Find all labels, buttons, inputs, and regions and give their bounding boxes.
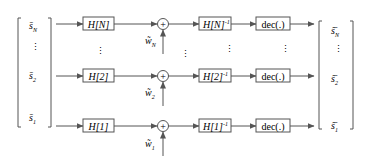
channel-label-h-n: H[N] [87, 19, 110, 30]
ellipsis-decoder: ⋮ [281, 44, 290, 54]
noise-label-w-1: w̃1 [145, 138, 155, 151]
row-2: H[2] + w̃2 H[2]-1 dec(.) [56, 69, 314, 106]
input-s-2: s̄2 [29, 70, 36, 83]
ellipsis-adder: ⋮ [181, 49, 190, 59]
noise-label-w-2: w̃2 [145, 87, 155, 100]
input-s-1: s̄1 [29, 112, 36, 125]
output-s-hat-n: ŝ̄N [331, 25, 340, 38]
decoder-label-n: dec(.) [261, 19, 284, 31]
channel-label-h-1: H[1] [87, 121, 108, 132]
right-bracket-open [319, 21, 322, 129]
adder-plus-icon: + [160, 121, 166, 132]
output-vector: ŝ̄N ⋮ ŝ̄2 ŝ̄1 [319, 21, 353, 133]
decoder-label-1: dec(.) [261, 121, 284, 133]
adder-plus-icon: + [160, 19, 166, 30]
row-ellipses: ⋮ ⋮ ⋮ ⋮ [96, 44, 290, 59]
channel-label-h-2: H[2] [87, 71, 108, 82]
right-bracket-close [350, 21, 353, 129]
output-ellipsis: ⋮ [334, 44, 343, 54]
input-vector: s̄N ⋮ s̄2 s̄1 [18, 18, 51, 127]
noise-label-w-n: w̃N [145, 35, 157, 48]
ellipsis-channel: ⋮ [96, 46, 105, 56]
left-bracket-close [48, 18, 51, 127]
output-s-hat-1: ŝ̄1 [331, 120, 338, 133]
row-1: H[1] + w̃1 H[1]-1 dec(.) [56, 119, 314, 156]
output-s-hat-2: ŝ̄2 [331, 73, 338, 86]
input-ellipsis: ⋮ [31, 42, 40, 52]
decoder-label-2: dec(.) [261, 71, 284, 83]
block-diagram: s̄N ⋮ s̄2 s̄1 H[N] + w̃N H[N]-1 dec(.) ⋮… [0, 0, 375, 166]
input-s-n: s̄N [29, 20, 38, 33]
ellipsis-inverse: ⋮ [225, 44, 234, 54]
left-bracket-open [18, 18, 21, 127]
adder-plus-icon: + [160, 71, 166, 82]
